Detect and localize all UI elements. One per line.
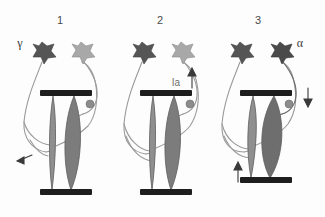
panel-2-number: 2 xyxy=(157,14,163,26)
alpha-label: α xyxy=(297,36,304,50)
tendon-bar-bottom xyxy=(40,189,92,195)
figure-root: 1 γ xyxy=(0,0,325,217)
synaptic-bouton xyxy=(86,100,94,108)
synaptic-bouton xyxy=(186,100,194,108)
tendon-bar-top xyxy=(240,90,292,96)
reflex-loop-diagram: 1 γ xyxy=(0,0,325,217)
synaptic-bouton xyxy=(285,100,293,108)
panel-1-number: 1 xyxy=(57,14,63,26)
gamma-label: γ xyxy=(16,36,23,50)
tendon-bar-top xyxy=(140,90,192,96)
tendon-bar-top xyxy=(40,90,92,96)
tendon-bar-bottom xyxy=(240,177,292,183)
tendon-bar-bottom xyxy=(140,189,192,195)
panel-3-number: 3 xyxy=(255,14,261,26)
ia-afferent-label: Ia xyxy=(172,77,181,88)
